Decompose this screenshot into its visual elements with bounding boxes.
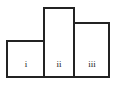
bar-label-iii: iii [88,59,96,69]
bar-chart-svg: i ii iii [0,0,116,85]
bar-diagram-figure: i ii iii [0,0,116,85]
bar-label-ii: ii [56,59,62,69]
